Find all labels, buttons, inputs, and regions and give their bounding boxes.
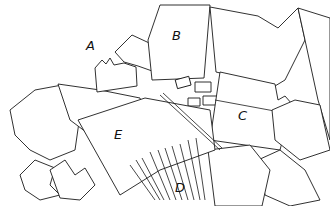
label-d: D [175, 180, 185, 195]
label-a: A [86, 38, 95, 53]
paper-piece [208, 145, 270, 206]
label-b: B [172, 28, 181, 43]
block [195, 82, 211, 92]
label-e: E [114, 127, 122, 142]
block [188, 98, 200, 106]
label-c: C [238, 108, 247, 123]
illustration: A B C D E [0, 0, 330, 206]
line-drawing [0, 0, 330, 206]
